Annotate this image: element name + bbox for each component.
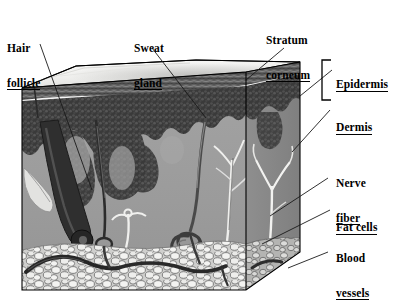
epidermis-bracket [322,60,331,100]
label-blood-vessels-line1: Blood [336,253,369,265]
label-dermis-line1: Dermis [336,122,372,135]
label-dermis: Dermis [336,99,372,158]
label-stratum-corneum-line2: corneum [266,70,310,83]
label-sweat-gland: Sweat gland [134,20,164,113]
label-nerve-fiber-line1: Nerve [336,178,366,190]
label-sweat-gland-line2: gland [134,78,162,91]
label-epidermis-line1: Epidermis [336,79,388,92]
label-hair-follicle: Hair follicle [7,20,40,113]
label-hair-follicle-line1: Hair [7,43,40,55]
skin-cross-section-figure: Hair follicle Sweat gland Stratum corneu… [0,0,405,306]
label-stratum-corneum-line1: Stratum [266,35,310,47]
label-blood-vessels: Blood vessels [336,230,369,306]
label-stratum-corneum: Stratum corneum [266,12,310,105]
fat-cell-layer [22,241,246,292]
label-blood-vessels-line2: vessels [336,288,369,301]
label-sweat-gland-line1: Sweat [134,43,164,55]
label-hair-follicle-line2: follicle [7,78,40,91]
